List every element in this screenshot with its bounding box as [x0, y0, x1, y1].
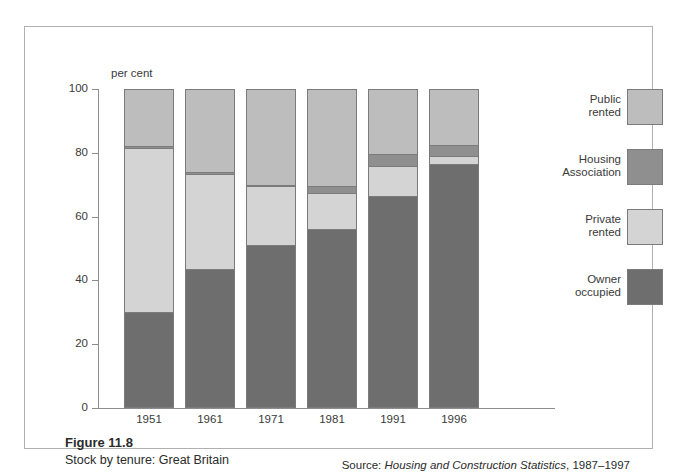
figure-source: Source: Housing and Construction Statist…: [342, 459, 630, 471]
bar-segment: [368, 89, 418, 154]
bar-segment: [368, 154, 418, 165]
bar-segment: [429, 89, 479, 145]
bar-segment: [124, 89, 174, 146]
x-axis-line: [98, 408, 555, 409]
figure-frame: per cent 020406080100 195119611971198119…: [24, 26, 653, 449]
bar-segment: [246, 186, 296, 245]
bar-segment: [124, 148, 174, 312]
legend-swatch: [627, 89, 663, 125]
legend-label-line1: Private: [559, 213, 621, 226]
bar-stack: [246, 89, 296, 408]
legend-label: Owneroccupied: [559, 273, 621, 299]
bar-segment: [124, 146, 174, 148]
source-years: , 1987–1997: [566, 459, 630, 471]
legend-item: Publicrented: [559, 89, 669, 125]
legend-label-line2: Association: [559, 166, 621, 179]
figure-number: Figure 11.8: [65, 435, 465, 451]
bar-segment: [368, 166, 418, 196]
source-publication: Housing and Construction Statistics: [385, 459, 567, 471]
bar-segment: [429, 145, 479, 156]
legend-label-line2: rented: [559, 106, 621, 119]
bar-stack: [124, 89, 174, 408]
bar-segment: [185, 89, 235, 172]
x-tick-label: 1996: [429, 413, 479, 425]
y-tick-mark: [92, 217, 98, 218]
source-prefix: Source:: [342, 459, 385, 471]
y-tick-mark: [92, 280, 98, 281]
bar-segment: [185, 174, 235, 270]
bar-stack: [307, 89, 357, 408]
legend-label-line1: Housing: [559, 153, 621, 166]
x-tick-label: 1971: [246, 413, 296, 425]
bar-stack: [368, 89, 418, 408]
legend-label: Privaterented: [559, 213, 621, 239]
legend-label-line1: Public: [559, 93, 621, 106]
legend-label: Publicrented: [559, 93, 621, 119]
y-tick-label: 20: [48, 338, 88, 350]
y-tick-label: 60: [48, 211, 88, 223]
bar-segment: [368, 196, 418, 408]
y-tick-label: 80: [48, 147, 88, 159]
bar-segment: [307, 186, 357, 192]
legend-swatch: [627, 149, 663, 185]
y-tick-mark: [92, 344, 98, 345]
bar-segment: [307, 229, 357, 408]
y-axis-unit-label: per cent: [111, 67, 153, 79]
legend-label-line2: rented: [559, 226, 621, 239]
y-tick-mark: [92, 153, 98, 154]
bar-stack: [429, 89, 479, 408]
bar-segment: [429, 164, 479, 408]
legend-item: HousingAssociation: [559, 149, 669, 185]
y-tick-mark: [92, 408, 98, 409]
x-tick-label: 1981: [307, 413, 357, 425]
bar-segment: [429, 156, 479, 164]
legend-swatch: [627, 269, 663, 305]
y-tick-label: 100: [48, 83, 88, 95]
legend-label: HousingAssociation: [559, 153, 621, 179]
legend-swatch: [627, 209, 663, 245]
legend-item: Privaterented: [559, 209, 669, 245]
y-tick-label: 0: [48, 402, 88, 414]
bar-segment: [246, 185, 296, 187]
legend-label-line2: occupied: [559, 286, 621, 299]
x-tick-label: 1951: [124, 413, 174, 425]
bar-segment: [246, 245, 296, 408]
x-tick-label: 1991: [368, 413, 418, 425]
bar-segment: [124, 312, 174, 408]
legend-label-line1: Owner: [559, 273, 621, 286]
y-axis-line: [98, 89, 99, 409]
bar-stack: [185, 89, 235, 408]
y-tick-label: 40: [48, 274, 88, 286]
bar-segment: [185, 172, 235, 174]
bar-segment: [185, 269, 235, 408]
y-tick-mark: [92, 89, 98, 90]
bar-segment: [307, 89, 357, 186]
bar-segment: [307, 193, 357, 230]
legend-item: Owneroccupied: [559, 269, 669, 305]
x-tick-label: 1961: [185, 413, 235, 425]
bar-segment: [246, 89, 296, 185]
